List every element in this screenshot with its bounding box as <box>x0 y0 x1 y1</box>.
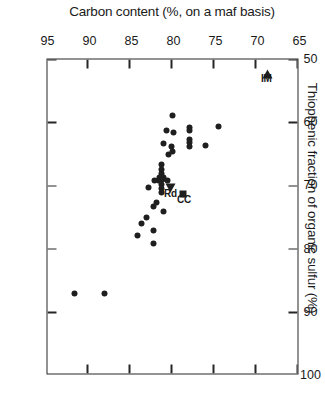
y-tick-90 <box>86 364 88 373</box>
marker-label-im: IM <box>260 72 271 83</box>
x-tick-50 <box>47 59 56 60</box>
plot-area: CCRdIM <box>47 59 297 373</box>
y-tick-75 <box>212 59 214 68</box>
y-tick-85 <box>128 364 130 373</box>
y-tick-label-70: 70 <box>243 33 271 47</box>
data-point <box>160 140 166 146</box>
y-tick-80 <box>170 364 172 373</box>
y-tick-label-85: 85 <box>117 33 145 47</box>
marker-label-cc: CC <box>176 193 190 204</box>
plot-frame: CCRdIM <box>46 58 298 374</box>
data-point <box>138 220 144 226</box>
data-point <box>150 203 156 209</box>
data-point <box>143 214 149 220</box>
data-point <box>150 240 156 246</box>
data-point <box>169 112 175 118</box>
x-tick-70 <box>47 185 56 187</box>
y-tick-label-75: 75 <box>201 33 229 47</box>
x-tick-60 <box>47 121 56 123</box>
data-point <box>170 129 176 135</box>
data-point <box>186 143 192 149</box>
data-point <box>215 123 221 129</box>
y-axis-title-text: Carbon content (%, on a maf basis) <box>69 4 275 19</box>
data-point <box>160 208 166 214</box>
x-tick-label-100: 100 <box>295 367 325 381</box>
y-tick-label-95: 95 <box>33 33 61 47</box>
data-point <box>151 177 157 183</box>
figure-inner: Thiophenic fraction of organic sulfur (%… <box>0 0 325 395</box>
data-point <box>71 290 77 296</box>
x-tick-80 <box>47 248 56 250</box>
y-tick-85 <box>128 59 130 68</box>
x-tick-label-70: 70 <box>295 177 325 191</box>
y-tick-70 <box>254 59 256 68</box>
y-tick-75 <box>212 364 214 373</box>
y-tick-90 <box>86 59 88 68</box>
rotated-figure: Thiophenic fraction of organic sulfur (%… <box>0 0 325 395</box>
data-point <box>164 177 170 183</box>
y-tick-label-80: 80 <box>159 33 187 47</box>
x-tick-label-60: 60 <box>295 114 325 128</box>
y-tick-label-65: 65 <box>285 33 313 47</box>
data-point <box>202 142 208 148</box>
y-tick-80 <box>170 59 172 68</box>
data-point <box>134 232 140 238</box>
x-tick-90 <box>47 311 56 313</box>
y-axis-title: Carbon content (%, on a maf basis) <box>46 0 298 22</box>
x-tick-label-80: 80 <box>295 241 325 255</box>
data-point <box>163 127 169 133</box>
data-point <box>186 127 192 133</box>
y-tick-label-90: 90 <box>75 33 103 47</box>
data-point <box>150 227 156 233</box>
x-tick-label-90: 90 <box>295 304 325 318</box>
data-point <box>165 151 171 157</box>
marker-label-rd: Rd <box>164 187 177 198</box>
data-point <box>145 184 151 190</box>
data-point <box>101 290 107 296</box>
x-tick-label-50: 50 <box>295 51 325 65</box>
y-tick-70 <box>254 364 256 373</box>
